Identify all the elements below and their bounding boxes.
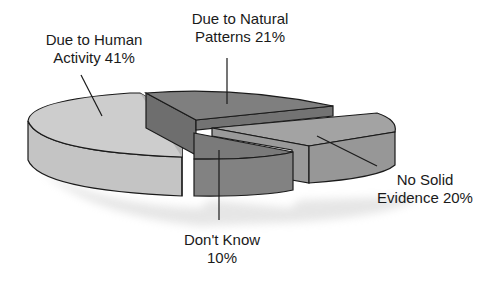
label-human-activity: Due to Human Activity 41% — [34, 31, 154, 67]
label-natural-patterns: Due to Natural Patterns 21% — [175, 10, 305, 46]
label-natural-patterns-line2: Patterns 21% — [175, 28, 305, 46]
label-no-solid-evidence-line1: No Solid — [370, 171, 480, 189]
label-dont-know-line2: 10% — [177, 249, 267, 267]
label-no-solid-evidence: No Solid Evidence 20% — [370, 171, 480, 207]
label-dont-know: Don't Know 10% — [177, 231, 267, 267]
label-natural-patterns-line1: Due to Natural — [175, 10, 305, 28]
label-human-activity-line1: Due to Human — [34, 31, 154, 49]
label-no-solid-evidence-line2: Evidence 20% — [370, 189, 480, 207]
label-human-activity-line2: Activity 41% — [34, 49, 154, 67]
label-dont-know-line1: Don't Know — [177, 231, 267, 249]
